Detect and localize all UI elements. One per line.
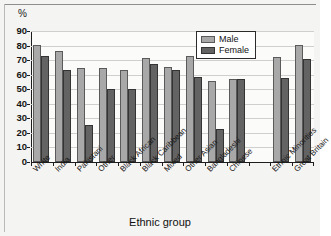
bar-female — [150, 64, 158, 162]
bar-male — [33, 45, 41, 162]
y-axis-unit-label: % — [18, 8, 27, 19]
bar-group — [120, 31, 142, 162]
y-axis-tick-mark — [27, 60, 30, 61]
bar-group — [55, 31, 77, 162]
y-axis-tick-mark — [27, 46, 30, 47]
y-axis-tick-mark — [27, 31, 30, 32]
bar-group — [273, 31, 295, 162]
bar-group — [99, 31, 121, 162]
y-axis-tick-label: 20 — [11, 128, 27, 138]
y-axis-tick-label: 10 — [11, 143, 27, 153]
figure-top-border — [4, 4, 316, 5]
legend-item-female: Female — [201, 45, 249, 56]
y-axis-tick-labels: 0102030405060708090 — [9, 31, 27, 163]
legend-swatch-female-icon — [201, 47, 215, 54]
bar-male — [120, 70, 128, 162]
bar-group — [77, 31, 99, 162]
legend-label-male: Male — [219, 35, 239, 44]
y-axis-tick-mark — [27, 133, 30, 134]
y-axis-tick-mark — [27, 118, 30, 119]
bar-male — [55, 51, 63, 162]
bar-male — [186, 56, 194, 162]
y-axis-tick-label: 70 — [11, 55, 27, 65]
y-axis-tick-mark — [27, 104, 30, 105]
legend-swatch-male-icon — [201, 36, 215, 43]
bar-female — [41, 56, 49, 162]
y-axis-tick-mark — [27, 89, 30, 90]
y-axis-line — [31, 31, 32, 163]
y-axis-tick-label: 90 — [11, 26, 27, 36]
y-axis-tick-label: 80 — [11, 41, 27, 51]
legend-item-male: Male — [201, 34, 249, 45]
chart-legend: Male Female — [196, 31, 256, 59]
bar-female — [107, 89, 115, 162]
bar-female — [172, 70, 180, 162]
y-axis-tick-label: 0 — [11, 157, 27, 167]
legend-label-female: Female — [219, 46, 249, 55]
y-axis-tick-mark — [27, 162, 30, 163]
x-axis-tick-mark — [313, 163, 314, 166]
bar-group — [33, 31, 55, 162]
bar-male — [77, 68, 85, 162]
x-axis-tick-mark — [249, 163, 250, 166]
x-axis-title: Ethnic group — [0, 216, 320, 228]
y-axis-tick-label: 60 — [11, 70, 27, 80]
bar-male — [273, 57, 281, 162]
y-axis-tick-mark — [27, 147, 30, 148]
figure-left-border — [4, 4, 5, 232]
bar-female — [63, 70, 71, 162]
y-axis-tick-label: 40 — [11, 99, 27, 109]
y-axis-tick-label: 30 — [11, 114, 27, 124]
y-axis-tick-label: 50 — [11, 84, 27, 94]
y-axis-tick-mark — [27, 75, 30, 76]
